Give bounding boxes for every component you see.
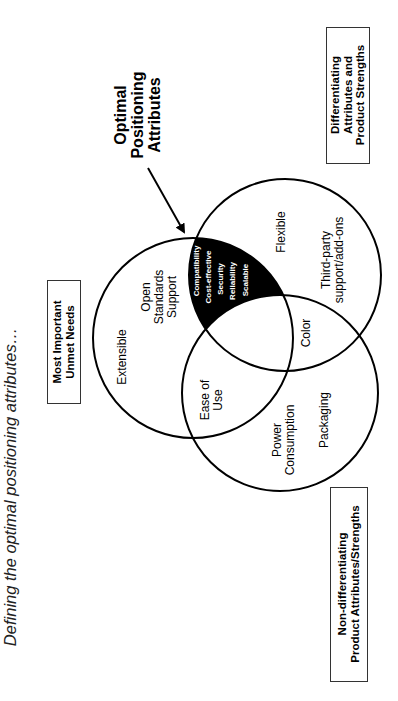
callout-line: Positioning [130,71,147,158]
callout-optimal-positioning: Optimal Positioning Attributes [113,71,163,158]
callout-line: Attributes [146,71,163,158]
item-line: Use [212,380,225,421]
label-line: Most Important [51,300,64,383]
label-non-differentiating: Non-differentiating Product Attributes/S… [336,505,361,662]
item-reliability: Reliability [229,262,237,300]
item-line: Consumption [284,405,297,476]
item-extensible: Extensible [116,329,129,384]
label-line: Non-differentiating [336,505,349,662]
label-line: Unmet Needs [64,300,77,383]
item-power-consumption: Power Consumption [271,405,297,476]
label-line: Differentiating [329,45,342,145]
callout-arrow-icon [148,168,184,232]
item-security: Security [217,263,225,295]
label-line: Attributes and [342,45,355,145]
label-line: Product Strengths [354,45,367,145]
item-cost-effective: Cost-effective [205,251,213,304]
item-ease-of-use: Ease of Use [199,380,225,421]
callout-line: Optimal [113,71,130,158]
item-flexible: Flexible [275,211,288,252]
item-line: Support [167,270,180,325]
item-line: support/add-ons [333,217,346,304]
item-packaging: Packaging [318,392,331,448]
item-open-standards-support: Open Standards Support [140,270,180,325]
label-unmet-needs: Most Important Unmet Needs [51,300,76,383]
item-compatibility: Compatibility [193,246,201,297]
item-third-party-support: Third-party support/add-ons [320,217,346,304]
page-title: Defining the optimal positioning attribu… [2,328,19,646]
item-scalable: Scalable [242,264,250,296]
label-line: Product Attributes/Strengths [349,505,362,662]
label-differentiating: Differentiating Attributes and Product S… [329,45,367,145]
item-color: Color [300,319,313,348]
